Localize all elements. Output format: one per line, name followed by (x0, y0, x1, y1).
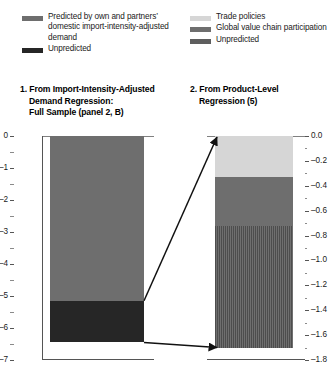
tick-mark (305, 310, 309, 311)
tick-label: –0.6 (311, 207, 327, 215)
tick-mark (10, 168, 14, 169)
tick-label: 0 (3, 132, 8, 140)
tick-label: –1.0 (311, 256, 327, 264)
tick-mark (10, 328, 14, 329)
panel-2-segment-trade-policies (215, 136, 293, 177)
tick-mark (305, 260, 309, 261)
tick-mark (305, 348, 307, 349)
tick-label: 0.0 (311, 132, 322, 140)
tick-mark (305, 211, 309, 212)
panel-1-plot-area (42, 136, 154, 360)
panel-2-plot-area (207, 136, 305, 360)
panel-1-title-line1: 1. From Import-Intensity-Adjusted (20, 84, 155, 94)
tick-label: –2 (0, 196, 8, 204)
legend-swatch-unpredicted-right (190, 39, 211, 44)
panel-1-baseline (42, 359, 154, 360)
tick-mark (305, 273, 307, 274)
tick-label: –3 (0, 228, 8, 236)
tick-mark (305, 335, 309, 336)
tick-mark (305, 223, 307, 224)
tick-mark (305, 173, 307, 174)
tick-mark (10, 296, 14, 297)
tick-mark (305, 186, 309, 187)
tick-label: –7 (0, 356, 8, 364)
tick-label: –4 (0, 260, 8, 268)
tick-label: –0.4 (311, 182, 327, 190)
tick-label: –6 (0, 324, 8, 332)
tick-mark (10, 312, 14, 313)
panel-2-segment-gvc (215, 177, 293, 226)
legend-left: Predicted by own and partners’ domestic … (22, 12, 172, 56)
tick-mark (305, 148, 307, 149)
tick-mark (10, 232, 14, 233)
tick-mark (10, 184, 14, 185)
tick-mark (305, 136, 309, 137)
panel-2-title-line2: Regression (5) (190, 96, 330, 108)
panel-1-y-axis: 0–1–2–3–4–5–6–7 (14, 136, 42, 360)
panel-2-y-axis: 0.0–0.2–0.4–0.6–0.8–1.0–1.2–1.4–1.6–1.8 (305, 136, 335, 360)
tick-label: –1.6 (311, 331, 327, 339)
panel-2-segment-unpredicted (215, 226, 293, 348)
legend-label-unpredicted-right: Unpredicted (216, 35, 259, 45)
tick-label: –0.2 (311, 157, 327, 165)
tick-mark (305, 198, 307, 199)
tick-mark (10, 216, 14, 217)
tick-label: –0.8 (311, 232, 327, 240)
tick-mark (10, 200, 14, 201)
panel-2-title: 2. From Product-Level Regression (5) (190, 84, 330, 107)
legend-right: Trade policies Global value chain partic… (190, 12, 336, 46)
legend-item-trade-policies: Trade policies (190, 12, 336, 22)
tick-mark (305, 298, 307, 299)
panel-2-baseline (207, 359, 305, 360)
panel-1-axis-spine (42, 136, 43, 360)
panel-1-title-line2: Demand Regression: (20, 96, 180, 108)
tick-label: –1.8 (311, 356, 327, 364)
tick-label: –1 (0, 164, 8, 172)
tick-mark (305, 285, 309, 286)
panel-2-title-line1: 2. From Product-Level (190, 84, 279, 94)
legend-item-gvc: Global value chain participation (190, 23, 336, 33)
legend-label-unpredicted-left: Unpredicted (48, 44, 91, 54)
legend-label-gvc: Global value chain participation (216, 23, 327, 33)
tick-mark (10, 264, 14, 265)
panel-1-segment-unpredicted (50, 301, 144, 343)
legend-item-unpredicted-left: Unpredicted (22, 44, 172, 54)
legend-swatch-trade-policies (190, 16, 211, 21)
legend-swatch-unpredicted-left (22, 48, 43, 53)
legend-swatch-gvc (190, 27, 211, 32)
legend-swatch-predicted (22, 16, 43, 21)
tick-mark (305, 236, 309, 237)
tick-label: –1.2 (311, 281, 327, 289)
legend-label-trade-policies: Trade policies (216, 12, 265, 22)
chart-figure: Predicted by own and partners’ domestic … (0, 0, 336, 379)
tick-mark (305, 323, 307, 324)
legend-item-unpredicted-right: Unpredicted (190, 35, 336, 45)
tick-mark (305, 248, 307, 249)
tick-mark (305, 161, 309, 162)
panel-1-segment-predicted (50, 136, 144, 301)
legend-item-predicted: Predicted by own and partners’ domestic … (22, 12, 172, 43)
tick-label: –5 (0, 292, 8, 300)
tick-mark (10, 360, 14, 361)
legend-label-predicted: Predicted by own and partners’ domestic … (48, 12, 172, 43)
tick-label: –1.4 (311, 306, 327, 314)
tick-mark (10, 152, 14, 153)
panel-1-title: 1. From Import-Intensity-Adjusted Demand… (20, 84, 180, 119)
tick-mark (10, 280, 14, 281)
tick-mark (10, 344, 14, 345)
tick-mark (10, 248, 14, 249)
tick-mark (10, 136, 14, 137)
tick-mark (305, 360, 309, 361)
panel-1-title-line3: Full Sample (panel 2, B) (20, 107, 180, 119)
